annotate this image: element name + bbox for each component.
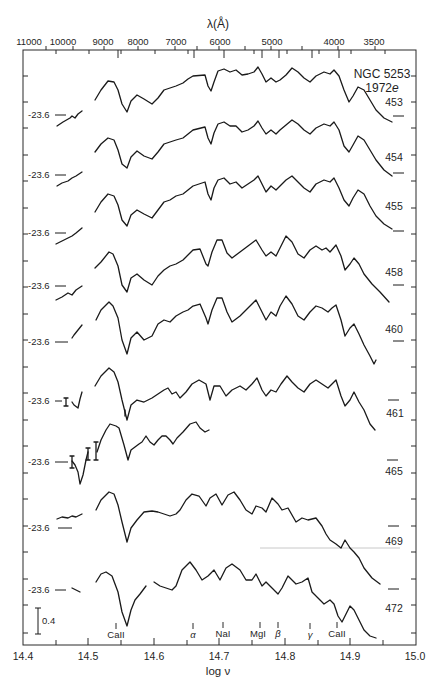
top-axis-tick-labels: 11000 10000 9000 8000 7000 6000 5000 400… xyxy=(16,36,384,47)
line-markers: CaII α NaI MgI β γ CaII xyxy=(107,622,345,640)
spectrum-460 xyxy=(72,296,376,364)
line-marker-label: β xyxy=(274,628,281,639)
zero-level-label: -23.6 xyxy=(28,522,50,533)
line-marker-label: γ xyxy=(308,629,314,640)
line-marker-label: MgI xyxy=(250,628,266,639)
epoch-label: 455 xyxy=(385,200,403,212)
bottom-tick-label: 14.8 xyxy=(275,650,296,662)
top-tick-label: 5000 xyxy=(261,36,282,47)
bottom-axis-tick-labels: 14.4 14.5 14.6 14.7 14.8 14.9 15.0 xyxy=(13,650,426,662)
spectra-figure: λ(Å) 11000 10000 9000 8000 7000 6000 500… xyxy=(0,0,438,683)
top-tick-label: 11000 xyxy=(16,36,42,47)
scale-bar-label: 0.4 xyxy=(42,615,55,626)
object-label: NGC 5253 xyxy=(354,67,411,81)
top-tick-label: 10000 xyxy=(50,36,76,47)
bottom-tick-label: 14.7 xyxy=(209,650,230,662)
bottom-tick-label: 15.0 xyxy=(405,650,426,662)
line-marker-label: α xyxy=(190,629,196,640)
spectrum-454 xyxy=(57,120,392,186)
bottom-tick-label: 14.6 xyxy=(144,650,165,662)
bottom-tick-label: 14.5 xyxy=(78,650,99,662)
spectrum-455 xyxy=(56,176,392,244)
zero-level-label: -23.6 xyxy=(28,109,50,120)
epoch-label: 458 xyxy=(385,266,403,278)
epoch-label: 469 xyxy=(385,535,403,547)
top-tick-label: 6000 xyxy=(209,36,230,47)
bottom-tick-label: 14.9 xyxy=(340,650,361,662)
zero-level-label: -23.6 xyxy=(28,336,50,347)
spectrum-461 xyxy=(64,368,375,430)
top-axis-title: λ(Å) xyxy=(207,16,229,31)
supernova-year: 1972 xyxy=(365,81,392,95)
top-tick-label: 8000 xyxy=(127,36,148,47)
bottom-axis-title: log ν xyxy=(206,665,231,677)
supernova-suffix: e xyxy=(392,81,399,95)
spectrum-472 xyxy=(72,562,376,638)
spectra xyxy=(56,67,392,638)
line-marker-label: CaII xyxy=(107,629,124,640)
side-ticks xyxy=(23,76,416,633)
epoch-label: 460 xyxy=(385,323,403,335)
zero-level-label: -23.6 xyxy=(28,584,50,595)
zero-level-label: -23.6 xyxy=(28,280,50,291)
bottom-axis-ticks xyxy=(56,638,383,645)
spectrum-469 xyxy=(57,492,380,584)
supernova-label: 1972e xyxy=(365,81,399,95)
top-axis-ticks xyxy=(46,46,385,58)
line-marker-label: NaI xyxy=(216,628,231,639)
zero-level-label: -23.6 xyxy=(28,227,50,238)
top-tick-label: 4000 xyxy=(323,36,344,47)
epoch-label: 454 xyxy=(385,151,403,163)
zero-level-label: -23.6 xyxy=(28,169,50,180)
scale-bar: 0.4 xyxy=(35,608,55,634)
zero-level-label: -23.6 xyxy=(28,395,50,406)
bottom-tick-label: 14.4 xyxy=(13,650,34,662)
top-tick-label: 3500 xyxy=(363,36,384,47)
line-marker-label: CaII xyxy=(328,628,345,639)
epoch-label: 461 xyxy=(386,407,404,419)
zero-level-label: -23.6 xyxy=(28,456,50,467)
spectrum-458 xyxy=(56,236,389,302)
epoch-label: 472 xyxy=(385,602,403,614)
top-tick-label: 7000 xyxy=(165,36,186,47)
spectrum-453 xyxy=(57,67,392,126)
epoch-label: 453 xyxy=(385,96,403,108)
spectrum-465 xyxy=(70,422,209,484)
epoch-label: 465 xyxy=(385,465,403,477)
top-tick-label: 9000 xyxy=(92,36,113,47)
